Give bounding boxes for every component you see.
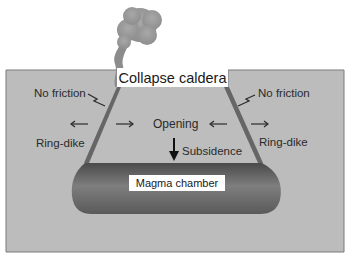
label-ring-dike-right: Ring-dike: [259, 137, 308, 149]
label-ring-dike-left: Ring-dike: [36, 138, 85, 150]
label-magma-chamber: Magma chamber: [129, 175, 225, 191]
label-subsidence: Subsidence: [182, 146, 242, 158]
label-no-friction-right: No friction: [258, 88, 310, 100]
caldera-title: Collapse caldera: [117, 68, 228, 87]
label-opening: Opening: [153, 118, 198, 130]
label-no-friction-left: No friction: [34, 88, 86, 100]
